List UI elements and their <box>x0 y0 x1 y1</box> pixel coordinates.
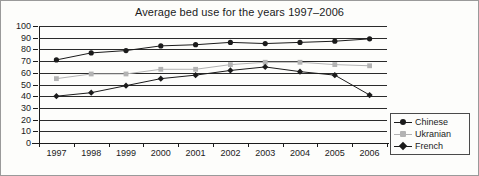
legend-label: Ukranian <box>413 129 451 139</box>
y-axis-tick-label: 20 <box>21 115 31 125</box>
x-axis-tick-label: 2006 <box>360 148 380 158</box>
data-point <box>367 92 373 98</box>
series-chinese <box>54 36 372 62</box>
chart-title: Average bed use for the years 1997–2006 <box>1 6 478 18</box>
legend-marker-square-icon <box>400 131 406 137</box>
x-axis-tick-label: 1999 <box>116 148 136 158</box>
y-tick-mark <box>33 143 38 144</box>
x-tick-mark <box>387 143 388 147</box>
data-point <box>89 50 94 55</box>
chart-screenshot: Average bed use for the years 1997–2006 … <box>0 0 479 176</box>
data-point <box>158 76 164 82</box>
x-tick-mark <box>317 143 318 147</box>
legend-item-ukranian[interactable]: Ukranian <box>393 128 466 140</box>
data-point <box>297 69 303 75</box>
y-tick-mark <box>33 85 38 86</box>
y-tick-mark <box>33 49 38 50</box>
y-axis-tick-label: 100 <box>16 21 31 31</box>
y-axis-tick-label: 0 <box>26 138 31 148</box>
legend-label: French <box>413 141 443 151</box>
data-point <box>332 72 338 78</box>
data-point <box>298 60 303 65</box>
x-axis-tick-label: 2002 <box>220 148 240 158</box>
data-point <box>332 62 337 67</box>
data-point <box>228 40 233 45</box>
series-french <box>53 64 372 99</box>
y-axis-tick-label: 80 <box>21 44 31 54</box>
data-point <box>54 57 59 62</box>
x-axis-tick-label: 1998 <box>81 148 101 158</box>
data-point <box>193 67 198 72</box>
x-tick-mark <box>213 143 214 147</box>
data-point <box>262 64 268 70</box>
data-point <box>227 67 233 73</box>
y-axis-labels: 1009080706050403020100 <box>9 26 31 143</box>
data-point <box>193 42 198 47</box>
legend-label: Chinese <box>413 117 448 127</box>
series-ukranian <box>54 60 372 81</box>
y-tick-mark <box>33 73 38 74</box>
series-line <box>56 62 369 78</box>
series-layer <box>39 26 387 143</box>
data-point <box>53 93 59 99</box>
x-tick-mark <box>39 143 40 147</box>
y-axis-tick-label: 50 <box>21 80 31 90</box>
x-tick-mark <box>248 143 249 147</box>
y-axis-tick-label: 40 <box>21 91 31 101</box>
data-point <box>367 63 372 68</box>
data-point <box>88 90 94 96</box>
x-tick-mark <box>283 143 284 147</box>
y-axis-tick-label: 60 <box>21 68 31 78</box>
x-axis-tick-label: 1997 <box>46 148 66 158</box>
legend-item-french[interactable]: French <box>393 140 466 152</box>
y-tick-mark <box>33 108 38 109</box>
x-tick-mark <box>143 143 144 147</box>
x-tick-mark <box>109 143 110 147</box>
data-point <box>367 36 372 41</box>
y-axis-tick-label: 90 <box>21 33 31 43</box>
y-tick-mark <box>33 38 38 39</box>
legend-marker-circle-icon <box>400 119 406 125</box>
legend-swatch-circle-icon <box>393 117 413 128</box>
data-point <box>54 76 59 81</box>
data-point <box>158 67 163 72</box>
data-point <box>263 41 268 46</box>
data-point <box>158 43 163 48</box>
y-axis-tick-label: 70 <box>21 56 31 66</box>
y-tick-mark <box>33 120 38 121</box>
x-axis-tick-label: 2004 <box>290 148 310 158</box>
y-tick-mark <box>33 131 38 132</box>
data-point <box>297 40 302 45</box>
x-axis-tick-label: 2001 <box>186 148 206 158</box>
legend-marker-diamond-icon <box>399 141 407 149</box>
x-axis-tick-label: 2000 <box>151 148 171 158</box>
x-tick-mark <box>352 143 353 147</box>
x-axis-tick-label: 2005 <box>325 148 345 158</box>
data-point <box>89 72 94 77</box>
chart-legend: ChineseUkranianFrench <box>390 113 470 155</box>
y-tick-mark <box>33 61 38 62</box>
x-tick-mark <box>178 143 179 147</box>
data-point <box>124 72 129 77</box>
legend-item-chinese[interactable]: Chinese <box>393 116 466 128</box>
data-point <box>123 48 128 53</box>
x-axis-tick-label: 2003 <box>255 148 275 158</box>
data-point <box>228 62 233 67</box>
series-line <box>56 39 369 60</box>
data-point <box>332 39 337 44</box>
x-tick-mark <box>74 143 75 147</box>
y-tick-mark <box>33 26 38 27</box>
y-axis-tick-label: 10 <box>21 126 31 136</box>
data-point <box>123 83 129 89</box>
y-tick-mark <box>33 96 38 97</box>
data-point <box>193 72 199 78</box>
legend-swatch-diamond-icon <box>393 141 413 152</box>
y-axis-tick-label: 30 <box>21 103 31 113</box>
series-line <box>56 67 369 96</box>
legend-swatch-square-icon <box>393 129 413 140</box>
